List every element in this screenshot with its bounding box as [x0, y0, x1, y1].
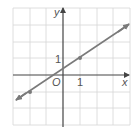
x-axis-label: x [121, 76, 128, 88]
point-neg2-neg1 [28, 90, 32, 94]
y-tick-label-1: 1 [55, 53, 61, 65]
coordinate-graph: y x O 1 1 [0, 0, 135, 134]
x-tick-label-1: 1 [77, 76, 83, 88]
point-1-1 [78, 56, 82, 60]
graph-svg: y x O 1 1 [0, 0, 135, 134]
grid [13, 8, 130, 125]
plotted-line-main [16, 25, 128, 100]
origin-label: O [52, 76, 61, 88]
